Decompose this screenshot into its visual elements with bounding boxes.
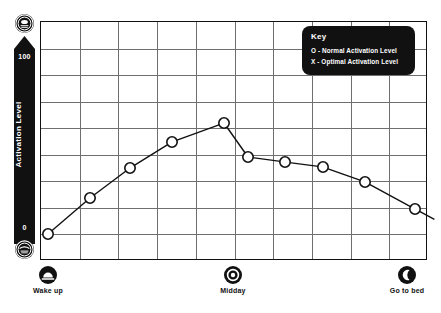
- moon-glyph: [398, 266, 416, 284]
- sleepy-face-glyph: [15, 240, 34, 259]
- data-point-marker[interactable]: [43, 229, 53, 239]
- alert-face-icon: [15, 14, 34, 33]
- x-axis-marker-wake-up: Wake up: [13, 266, 83, 294]
- legend-title: Key: [311, 32, 406, 41]
- series-segment: [51, 201, 86, 231]
- alert-face-glyph: [15, 14, 34, 33]
- x-axis-marker-midday: Midday: [198, 266, 268, 294]
- data-point-marker[interactable]: [243, 152, 253, 162]
- x-axis-marker-go-to-bed: Go to bed: [372, 266, 441, 294]
- data-point-marker[interactable]: [318, 162, 328, 172]
- series-segment: [369, 184, 411, 207]
- chart-legend: Key O - Normal Activation Level X - Opti…: [302, 26, 415, 75]
- data-point-marker[interactable]: [219, 118, 229, 128]
- y-axis-title: Activation Level: [14, 75, 23, 195]
- series-segment: [253, 158, 281, 162]
- x-axis-label-go-to-bed: Go to bed: [372, 287, 441, 294]
- series-segment: [176, 125, 219, 141]
- x-axis-label-wake-up: Wake up: [13, 287, 83, 294]
- sun-glyph: [224, 266, 242, 284]
- sun-icon: [224, 266, 242, 284]
- sunrise-icon: [39, 266, 57, 284]
- y-axis-max-label: 100: [14, 53, 35, 60]
- series-segment: [227, 127, 246, 153]
- data-point-marker[interactable]: [360, 177, 370, 187]
- chart-canvas: 100 Activation Level 0 Key: [0, 0, 441, 313]
- sunrise-glyph: [39, 266, 57, 284]
- data-point-marker[interactable]: [85, 193, 95, 203]
- data-point-marker[interactable]: [125, 163, 135, 173]
- series-segment: [94, 171, 127, 195]
- data-point-marker[interactable]: [280, 157, 290, 167]
- legend-entry-optimal: X - Optimal Activation Level: [311, 56, 406, 67]
- series-segment: [327, 169, 360, 181]
- data-point-marker[interactable]: [167, 137, 177, 147]
- series-tail: [420, 211, 435, 219]
- series-segment: [134, 144, 168, 165]
- moon-icon: [398, 266, 416, 284]
- y-axis-min-label: 0: [14, 224, 35, 231]
- sleepy-face-icon: [15, 240, 34, 259]
- series-segment: [290, 163, 319, 167]
- data-point-marker[interactable]: [410, 204, 420, 214]
- x-axis-label-midday: Midday: [198, 287, 268, 294]
- legend-entry-normal: O - Normal Activation Level: [311, 45, 406, 56]
